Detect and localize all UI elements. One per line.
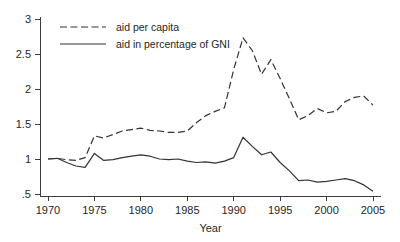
line-chart: .511.522.53 1970197519801985199019952000… [0,0,400,242]
chart-legend: aid per capitaaid in percentage of GNI [60,21,230,50]
x-tick-label: 1980 [129,204,153,216]
y-tick-label: 1 [25,153,31,165]
y-tick-label: 2.5 [16,48,31,60]
y-axis-ticks: .511.522.53 [16,13,40,200]
series-line-1 [48,38,373,160]
x-axis-ticks: 19701975198019851990199520002005 [36,196,385,216]
x-tick-label: 2005 [361,204,385,216]
legend-label-1: aid per capita [116,21,179,33]
x-tick-label: 1970 [36,204,60,216]
chart-figure: .511.522.53 1970197519801985199019952000… [0,0,400,242]
x-tick-label: 1995 [268,204,292,216]
y-tick-label: 2 [25,83,31,95]
x-tick-label: 1990 [221,204,245,216]
x-axis-title: Year [199,222,222,234]
y-tick-label: 3 [25,13,31,25]
legend-label-2: aid in percentage of GNI [116,38,230,50]
series-line-2 [48,137,373,191]
data-series-group [48,38,373,191]
x-tick-label: 2000 [314,204,338,216]
x-tick-label: 1975 [82,204,106,216]
x-tick-label: 1985 [175,204,199,216]
y-tick-label: 1.5 [16,118,31,130]
y-tick-label: .5 [22,188,31,200]
